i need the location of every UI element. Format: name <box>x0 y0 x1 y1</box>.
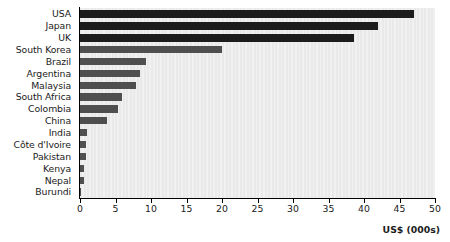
x-tick-label: 45 <box>394 203 406 214</box>
bar-row <box>80 67 435 79</box>
category-label: Malaysia <box>0 79 76 91</box>
bar-row <box>80 8 435 20</box>
bar <box>80 105 118 112</box>
category-label: UK <box>0 32 76 44</box>
x-tick-label: 50 <box>429 203 441 214</box>
plot-area <box>80 8 435 198</box>
x-tick-mark <box>435 199 436 203</box>
x-axis-title: US$ (000s) <box>383 224 440 235</box>
bar <box>80 177 84 184</box>
category-label: Nepal <box>0 174 76 186</box>
bar <box>80 93 122 100</box>
bar-row <box>80 20 435 32</box>
bar-row <box>80 151 435 163</box>
y-axis-line <box>79 7 80 199</box>
x-tick-label: 30 <box>287 203 299 214</box>
bar-row <box>80 44 435 56</box>
bar-row <box>80 32 435 44</box>
bar-row <box>80 174 435 186</box>
category-label: Japan <box>0 20 76 32</box>
x-tick-mark <box>222 199 223 203</box>
category-label: South Korea <box>0 44 76 56</box>
category-label: Kenya <box>0 162 76 174</box>
category-label: Burundi <box>0 186 76 198</box>
x-axis-ticks: 05101520253035404550 <box>80 199 435 213</box>
bar-row <box>80 56 435 68</box>
bar-row <box>80 103 435 115</box>
x-tick-mark <box>400 199 401 203</box>
x-tick-mark <box>80 199 81 203</box>
bar <box>80 10 414 18</box>
bar-row <box>80 91 435 103</box>
bar <box>80 58 146 65</box>
category-label: South Africa <box>0 91 76 103</box>
category-label: India <box>0 127 76 139</box>
x-tick-label: 20 <box>216 203 228 214</box>
category-label: China <box>0 115 76 127</box>
x-tick-mark <box>258 199 259 203</box>
bar-series <box>80 8 435 198</box>
x-tick-label: 40 <box>358 203 370 214</box>
x-tick-mark <box>116 199 117 203</box>
category-axis: USAJapanUKSouth KoreaBrazilArgentinaMala… <box>0 8 76 198</box>
category-label: Brazil <box>0 56 76 68</box>
bar <box>80 70 140 77</box>
x-tick-label: 0 <box>77 203 83 214</box>
bar-row <box>80 79 435 91</box>
x-tick-label: 10 <box>145 203 157 214</box>
bar <box>80 141 86 148</box>
x-tick-label: 15 <box>181 203 193 214</box>
category-label: Argentina <box>0 67 76 79</box>
bar-row <box>80 186 435 198</box>
bar <box>80 34 354 42</box>
x-tick-label: 5 <box>113 203 119 214</box>
bar-row <box>80 139 435 151</box>
bar <box>80 153 86 160</box>
bar <box>80 129 87 136</box>
x-tick-label: 25 <box>252 203 264 214</box>
bar <box>80 82 136 89</box>
x-tick-mark <box>187 199 188 203</box>
bar <box>80 46 222 53</box>
x-tick-mark <box>364 199 365 203</box>
category-label: Côte d'Ivoire <box>0 139 76 151</box>
category-label: Pakistan <box>0 151 76 163</box>
x-tick-mark <box>329 199 330 203</box>
bar <box>80 165 84 172</box>
bar-row <box>80 127 435 139</box>
category-label: USA <box>0 8 76 20</box>
bar-chart: USAJapanUKSouth KoreaBrazilArgentinaMala… <box>0 0 450 242</box>
x-tick-mark <box>151 199 152 203</box>
bar-row <box>80 162 435 174</box>
bar-row <box>80 115 435 127</box>
x-tick-label: 35 <box>323 203 335 214</box>
bar <box>80 22 378 30</box>
bar <box>80 117 107 124</box>
x-tick-mark <box>293 199 294 203</box>
category-label: Colombia <box>0 103 76 115</box>
